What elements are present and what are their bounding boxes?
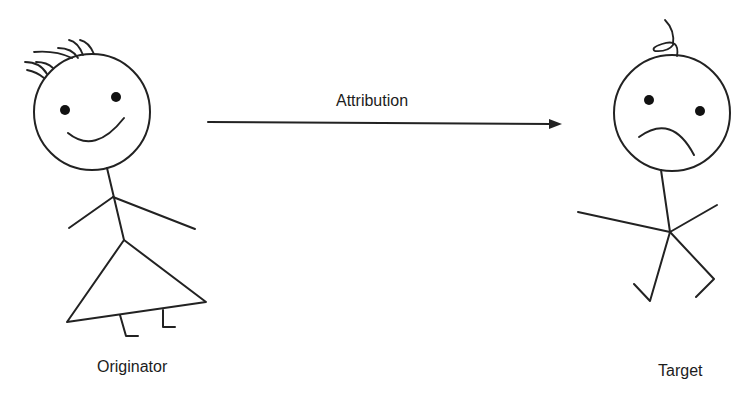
attribution-arrow <box>208 119 562 129</box>
target-left-arm <box>578 212 670 232</box>
attribution-diagram <box>0 0 746 401</box>
target-figure <box>578 20 730 301</box>
originator-neck <box>107 168 124 240</box>
originator-head <box>34 54 150 170</box>
originator-eye-right <box>111 92 121 102</box>
arrowhead-icon <box>549 119 562 129</box>
target-frown <box>639 128 694 155</box>
target-right-arm <box>670 205 717 232</box>
originator-label: Originator <box>97 358 167 376</box>
originator-hair <box>25 40 94 78</box>
originator-figure <box>25 40 206 336</box>
originator-dress <box>67 240 206 322</box>
target-right-leg <box>670 232 714 297</box>
target-eye-left <box>644 95 654 105</box>
target-hair-curl <box>654 20 678 56</box>
originator-right-leg <box>163 310 175 327</box>
target-head <box>614 55 730 171</box>
target-body <box>661 170 670 232</box>
target-eye-right <box>695 106 705 116</box>
attribution-label: Attribution <box>336 92 408 110</box>
originator-left-leg <box>120 315 138 336</box>
originator-left-arm <box>69 197 113 228</box>
target-left-leg <box>634 232 670 301</box>
originator-smile <box>68 118 124 141</box>
target-label: Target <box>658 362 702 380</box>
originator-right-arm <box>113 197 195 229</box>
originator-eye-left <box>60 105 70 115</box>
